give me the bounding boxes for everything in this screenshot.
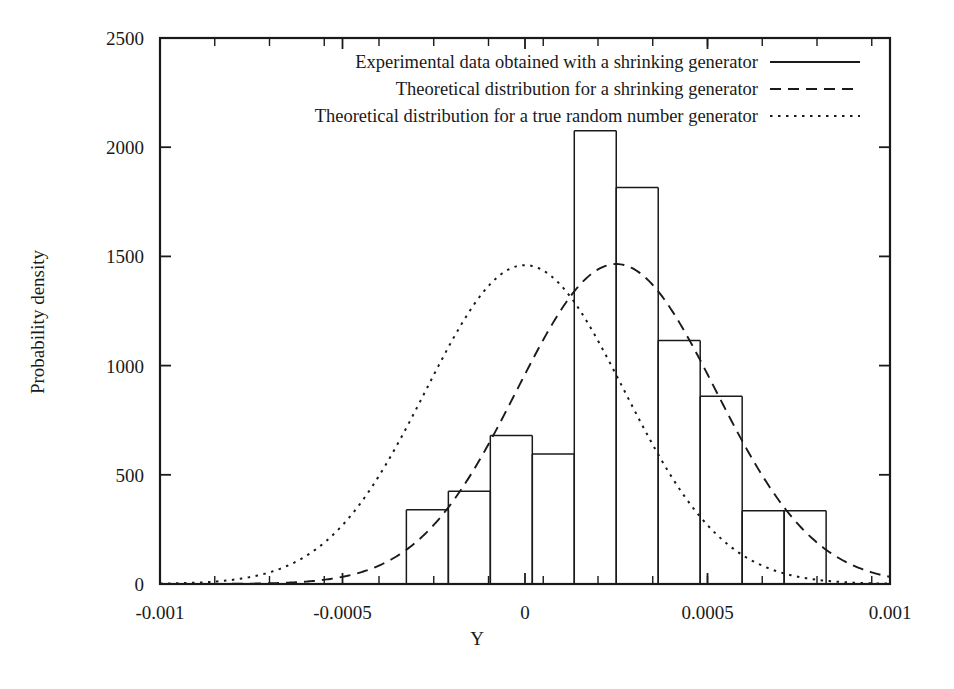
legend-label: Theoretical distribution for a true rand… xyxy=(315,106,758,126)
histogram-bar xyxy=(658,340,700,584)
y-tick-label: 2500 xyxy=(106,28,144,49)
histogram-bar xyxy=(616,188,658,584)
histogram-bar xyxy=(448,491,490,584)
histogram-bar xyxy=(742,511,784,584)
y-tick-label: 500 xyxy=(116,465,145,486)
curve-dotted xyxy=(160,265,890,583)
legend: Experimental data obtained with a shrink… xyxy=(315,52,860,126)
legend-label: Experimental data obtained with a shrink… xyxy=(355,52,758,72)
series-shrinking-generator-curve xyxy=(160,264,890,584)
probability-density-plot: -0.001-0.000500.00050.001 05001000150020… xyxy=(0,0,954,689)
chart-container: -0.001-0.000500.00050.001 05001000150020… xyxy=(0,0,954,689)
series-true-random-generator-curve xyxy=(160,265,890,583)
histogram-bar xyxy=(406,510,448,584)
x-axis-label: Y xyxy=(0,628,954,650)
y-tick-label: 2000 xyxy=(106,137,144,158)
histogram-bar xyxy=(700,396,742,584)
histogram-bar xyxy=(490,435,532,584)
curve-dashed xyxy=(160,264,890,584)
x-tick-label: 0 xyxy=(520,602,530,623)
y-tick-label: 0 xyxy=(135,574,145,595)
y-tick-label: 1500 xyxy=(106,246,144,267)
y-tick-label: 1000 xyxy=(106,356,144,377)
x-tick-label: -0.001 xyxy=(135,602,184,623)
x-tick-label: -0.0005 xyxy=(313,602,372,623)
x-tick-label: 0.001 xyxy=(869,602,912,623)
histogram-bar xyxy=(784,511,826,584)
legend-label: Theoretical distribution for a shrinking… xyxy=(396,79,758,99)
y-axis-label: Probability density xyxy=(27,222,49,422)
x-tick-label: 0.0005 xyxy=(681,602,733,623)
histogram-bar xyxy=(532,454,574,584)
series-experimental-histogram xyxy=(406,131,826,584)
histogram-bar xyxy=(574,131,616,584)
